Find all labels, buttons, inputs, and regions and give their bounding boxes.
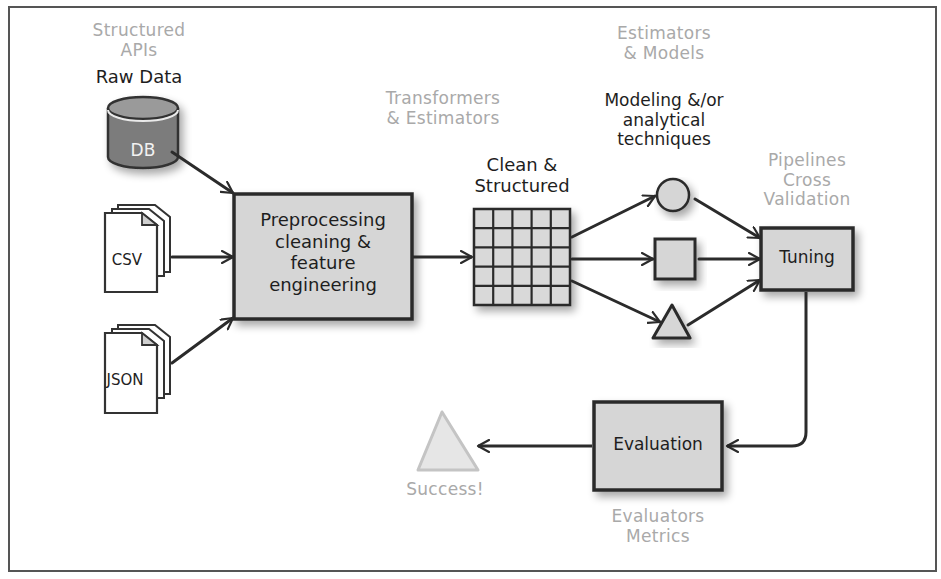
evaluation-label: Evaluation [613,435,703,455]
caption-line: Modeling &/or [604,91,723,111]
caption-line: Evaluators [611,507,704,527]
arrow-circle-to-tuning [695,199,760,238]
arrow-triangle-to-tuning [688,280,760,325]
json-label: JSON [107,372,144,389]
caption-clean-structured: Clean & Structured [474,155,569,196]
success-label: Success! [406,480,484,500]
arrow-data-to-triangle [572,281,660,322]
caption-evaluators: Evaluators Metrics [611,507,704,546]
arrow-db-to-preprocess [172,152,233,193]
caption-line: techniques [604,130,723,150]
caption-line: Clean & [474,155,569,176]
box-line: engineering [260,274,386,296]
caption-line: analytical [604,111,723,131]
caption-transformers: Transformers & Estimators [386,89,500,128]
caption-line: Pipelines [764,151,851,171]
box-line: feature [260,252,386,274]
caption-pipelines: Pipelines Cross Validation [764,151,851,210]
box-line: cleaning & [260,231,386,253]
tuning-label: Tuning [779,248,835,268]
caption-modeling-techniques: Modeling &/or analytical techniques [604,91,723,150]
preprocessing-label: Preprocessing cleaning & feature enginee… [260,209,386,295]
model-circle-icon [657,179,689,211]
caption-line: Validation [764,190,851,210]
arrow-tuning-to-evaluation [727,292,806,446]
db-label: DB [131,141,156,161]
caption-line: & Models [617,44,711,64]
caption-line: Cross [764,171,851,191]
caption-line: Estimators [617,24,711,44]
caption-line: APIs [93,41,186,61]
caption-raw-data: Raw Data [96,67,183,88]
caption-estimators-models: Estimators & Models [617,24,711,63]
json-file-icon [105,325,170,413]
caption-line: & Estimators [386,109,500,129]
caption-line: Structured [474,176,569,197]
arrow-data-to-circle [572,196,655,237]
caption-line: Structured [93,21,186,41]
caption-line: Transformers [386,89,500,109]
data-grid-icon [474,209,570,305]
csv-file-icon [105,205,170,292]
success-triangle-icon [418,412,478,470]
caption-structured-apis: Structured APIs [93,21,186,60]
arrow-json-to-preprocess [172,318,233,363]
csv-label: CSV [112,252,142,269]
model-square-icon [655,239,695,279]
box-line: Preprocessing [260,209,386,231]
caption-line: Metrics [611,527,704,547]
